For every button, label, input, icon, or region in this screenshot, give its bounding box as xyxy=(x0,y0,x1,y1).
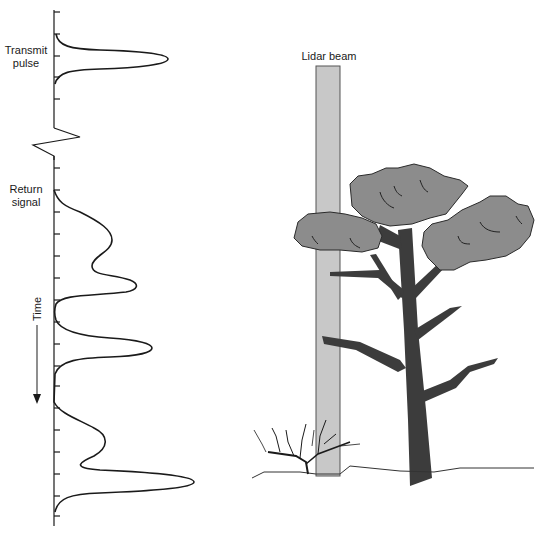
ground-line xyxy=(252,466,534,478)
tree-branch xyxy=(414,306,462,340)
return-signal-curve xyxy=(54,190,194,512)
transmit-pulse-label: Transmit pulse xyxy=(0,44,52,70)
lidar-beam xyxy=(316,66,340,476)
return-axis xyxy=(54,156,60,526)
return-label-line1: Return xyxy=(0,183,52,196)
transmit-label-line2: pulse xyxy=(0,57,52,70)
transmit-axis xyxy=(54,10,60,128)
canopy-center xyxy=(350,164,468,226)
tree-branch xyxy=(420,358,498,402)
shrub xyxy=(254,420,360,474)
time-arrow xyxy=(33,325,41,404)
lidar-beam-label: Lidar beam xyxy=(298,50,360,63)
arrow-down-icon xyxy=(33,394,41,404)
axis-break xyxy=(33,128,80,160)
tree-trunk xyxy=(398,228,432,486)
time-axis-label: Time xyxy=(31,294,43,324)
lidar-waveform-diagram xyxy=(0,0,547,536)
tree xyxy=(322,225,498,486)
transmit-label-line1: Transmit xyxy=(0,44,52,57)
return-signal-label: Return signal xyxy=(0,183,52,209)
return-label-line2: signal xyxy=(0,196,52,209)
transmit-pulse-curve xyxy=(55,34,168,84)
